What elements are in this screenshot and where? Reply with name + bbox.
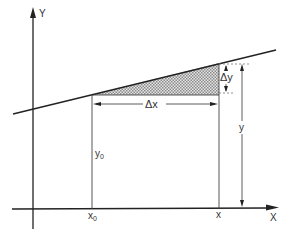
y-label: y xyxy=(239,122,244,133)
x-axis-label: X xyxy=(270,212,277,223)
delta-x-label: Δx xyxy=(145,98,158,110)
y0-label: y0 xyxy=(95,148,104,160)
delta-y-label: Δy xyxy=(220,71,233,83)
x0-label: x0 xyxy=(88,210,97,222)
x-axis xyxy=(12,205,279,211)
slope-diagram: Y X Δx Δy y y0 x0 xyxy=(0,0,288,234)
y-axis-arrow-icon xyxy=(30,7,36,18)
x-label: x xyxy=(216,209,221,220)
y-axis-label: Y xyxy=(39,8,46,19)
y-dimension-arrow xyxy=(240,64,244,207)
y-axis xyxy=(30,7,36,229)
x-axis-arrow-icon xyxy=(266,205,279,211)
